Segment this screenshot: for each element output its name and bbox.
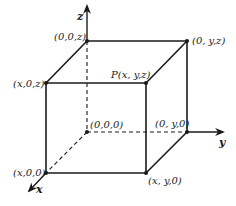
edge-right-bottom-diagonal (146, 132, 187, 173)
xy-point-label: (x, y,0) (148, 175, 182, 186)
yz-point-label: (0, y,z) (192, 35, 225, 46)
box-edges (46, 41, 187, 173)
y-point-label: (0, y,0) (155, 118, 189, 129)
coordinate-box-diagram: z y x (0,0,z) (x,0,z) (0, y,z) P(x, y,z)… (0, 0, 236, 206)
z-point-label: (0,0,z) (54, 31, 86, 42)
xz-point-label: (x,0,z) (13, 78, 45, 89)
origin-label: (0,0,0) (90, 119, 123, 130)
p-point-label: P(x, y,z) (110, 69, 150, 80)
x-axis-label: x (35, 183, 43, 196)
z-axis-label: z (76, 10, 84, 23)
x-axis-hidden (46, 132, 87, 173)
dot-yz-point (185, 39, 189, 43)
x-point-label: (x,0,0) (13, 167, 46, 178)
dot-p-point (144, 81, 148, 85)
dot-y-point (185, 130, 189, 134)
vertex-dots (44, 39, 189, 175)
edge-right-top-diagonal (146, 41, 187, 83)
dot-origin (85, 130, 89, 134)
y-axis-label: y (218, 136, 227, 149)
edge-left-top-diagonal (46, 41, 87, 83)
diagram-canvas: z y x (0,0,z) (x,0,z) (0, y,z) P(x, y,z)… (0, 0, 236, 206)
dot-xz-point (44, 81, 48, 85)
